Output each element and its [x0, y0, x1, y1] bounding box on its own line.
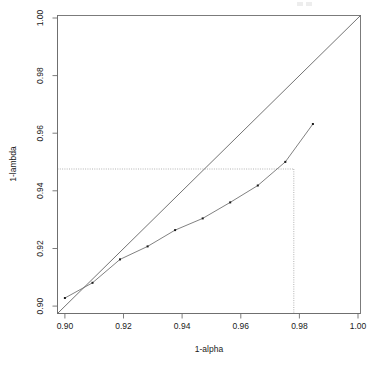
x-tick-label: 0.94 — [174, 321, 191, 331]
data-point — [284, 161, 286, 163]
data-point — [147, 245, 149, 247]
data-point — [64, 297, 66, 299]
x-axis: 0.90 0.92 0.94 0.96 0.98 1.00 1-alpha — [57, 314, 367, 355]
data-point — [202, 217, 204, 219]
y-axis: 0.90 0.92 0.94 0.96 0.98 1.00 1-lambda — [8, 9, 58, 314]
x-tick-label: 0.96 — [233, 321, 250, 331]
y-axis-title: 1-lambda — [8, 146, 18, 182]
data-point — [257, 185, 259, 187]
identity-diagonal-line — [58, 16, 361, 314]
y-tick-label: 0.98 — [35, 67, 45, 84]
y-tick-label: 0.90 — [35, 298, 45, 315]
chart-figure: 0.90 0.92 0.94 0.96 0.98 1.00 1-alpha 0.… — [0, 0, 376, 367]
x-axis-title: 1-alpha — [195, 344, 224, 354]
x-tick-label: 0.98 — [291, 321, 308, 331]
y-tick-label: 0.92 — [35, 240, 45, 257]
data-point — [312, 123, 314, 125]
y-tick-label: 0.96 — [35, 125, 45, 142]
x-tick-label: 0.92 — [115, 321, 132, 331]
scan-artifact — [297, 2, 312, 6]
data-point — [119, 258, 121, 260]
observed-series-line — [65, 124, 313, 298]
y-tick-label: 0.94 — [35, 182, 45, 199]
data-point — [92, 282, 94, 284]
x-tick-label: 0.90 — [57, 321, 74, 331]
data-point — [229, 201, 231, 203]
x-tick-label: 1.00 — [350, 321, 367, 331]
calibration-plot: 0.90 0.92 0.94 0.96 0.98 1.00 1-alpha 0.… — [0, 0, 376, 367]
data-point — [174, 229, 176, 231]
y-tick-label: 1.00 — [35, 9, 45, 26]
observed-series-points — [64, 123, 314, 299]
